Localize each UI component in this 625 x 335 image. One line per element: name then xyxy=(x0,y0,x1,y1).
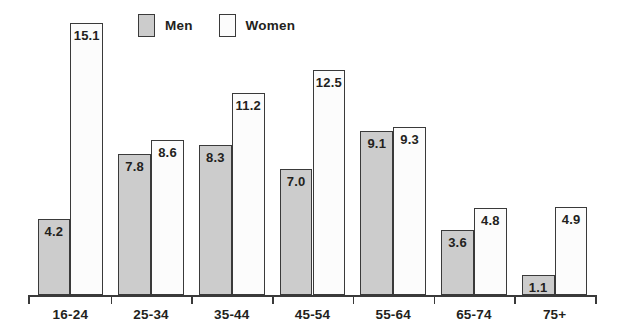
bar-value-label: 11.2 xyxy=(233,99,264,112)
bar-women-55-64: 9.3 xyxy=(393,127,426,295)
bar-value-label: 8.6 xyxy=(152,146,183,159)
bar-women-75+: 4.9 xyxy=(555,207,588,295)
x-axis-label-16-24: 16-24 xyxy=(30,307,111,322)
x-axis-tick xyxy=(595,295,597,304)
plot-area: 4.27.88.37.09.13.61.115.18.611.212.59.34… xyxy=(30,10,595,295)
bar-value-label: 4.8 xyxy=(475,214,506,227)
bar-value-label: 12.5 xyxy=(314,76,345,89)
x-axis-tick xyxy=(353,295,355,304)
bar-women-16-24: 15.1 xyxy=(70,23,103,295)
x-axis-label-25-34: 25-34 xyxy=(111,307,192,322)
bar-men-16-24: 4.2 xyxy=(38,219,71,295)
bar-women-25-34: 8.6 xyxy=(151,140,184,295)
x-axis-tick xyxy=(111,295,113,304)
bar-men-75+: 1.1 xyxy=(522,275,555,295)
bar-value-label: 15.1 xyxy=(71,29,102,42)
x-axis-tick xyxy=(191,295,193,304)
bar-value-label: 8.3 xyxy=(200,151,231,164)
x-axis-label-45-54: 45-54 xyxy=(272,307,353,322)
bar-men-45-54: 7.0 xyxy=(280,169,313,295)
bar-men-65-74: 3.6 xyxy=(441,230,474,295)
x-axis-label-35-44: 35-44 xyxy=(191,307,272,322)
bar-women-35-44: 11.2 xyxy=(232,93,265,295)
bar-men-25-34: 7.8 xyxy=(118,154,151,295)
bar-men-35-44: 8.3 xyxy=(199,145,232,295)
bar-men-55-64: 9.1 xyxy=(360,131,393,295)
bar-value-label: 1.1 xyxy=(523,281,554,294)
x-axis xyxy=(28,295,597,296)
bar-value-label: 7.0 xyxy=(281,175,312,188)
x-axis-label-65-74: 65-74 xyxy=(434,307,515,322)
x-axis-label-55-64: 55-64 xyxy=(353,307,434,322)
x-axis-tick xyxy=(28,295,30,304)
x-axis-line xyxy=(28,295,597,297)
bar-value-label: 9.1 xyxy=(361,137,392,150)
x-axis-tick xyxy=(514,295,516,304)
x-axis-tick-labels: 16-2425-3435-4445-5455-6465-7475+ xyxy=(28,307,597,327)
bar-value-label: 4.9 xyxy=(556,213,587,226)
bar-value-label: 4.2 xyxy=(39,225,70,238)
x-axis-label-75+: 75+ xyxy=(514,307,595,322)
bar-value-label: 3.6 xyxy=(442,236,473,249)
bar-value-label: 7.8 xyxy=(119,160,150,173)
bar-chart: Men Women 4.27.88.37.09.13.61.115.18.611… xyxy=(0,0,625,335)
x-axis-tick xyxy=(272,295,274,304)
bar-women-65-74: 4.8 xyxy=(474,208,507,295)
x-axis-tick xyxy=(434,295,436,304)
bar-women-45-54: 12.5 xyxy=(313,70,346,295)
bar-value-label: 9.3 xyxy=(394,133,425,146)
